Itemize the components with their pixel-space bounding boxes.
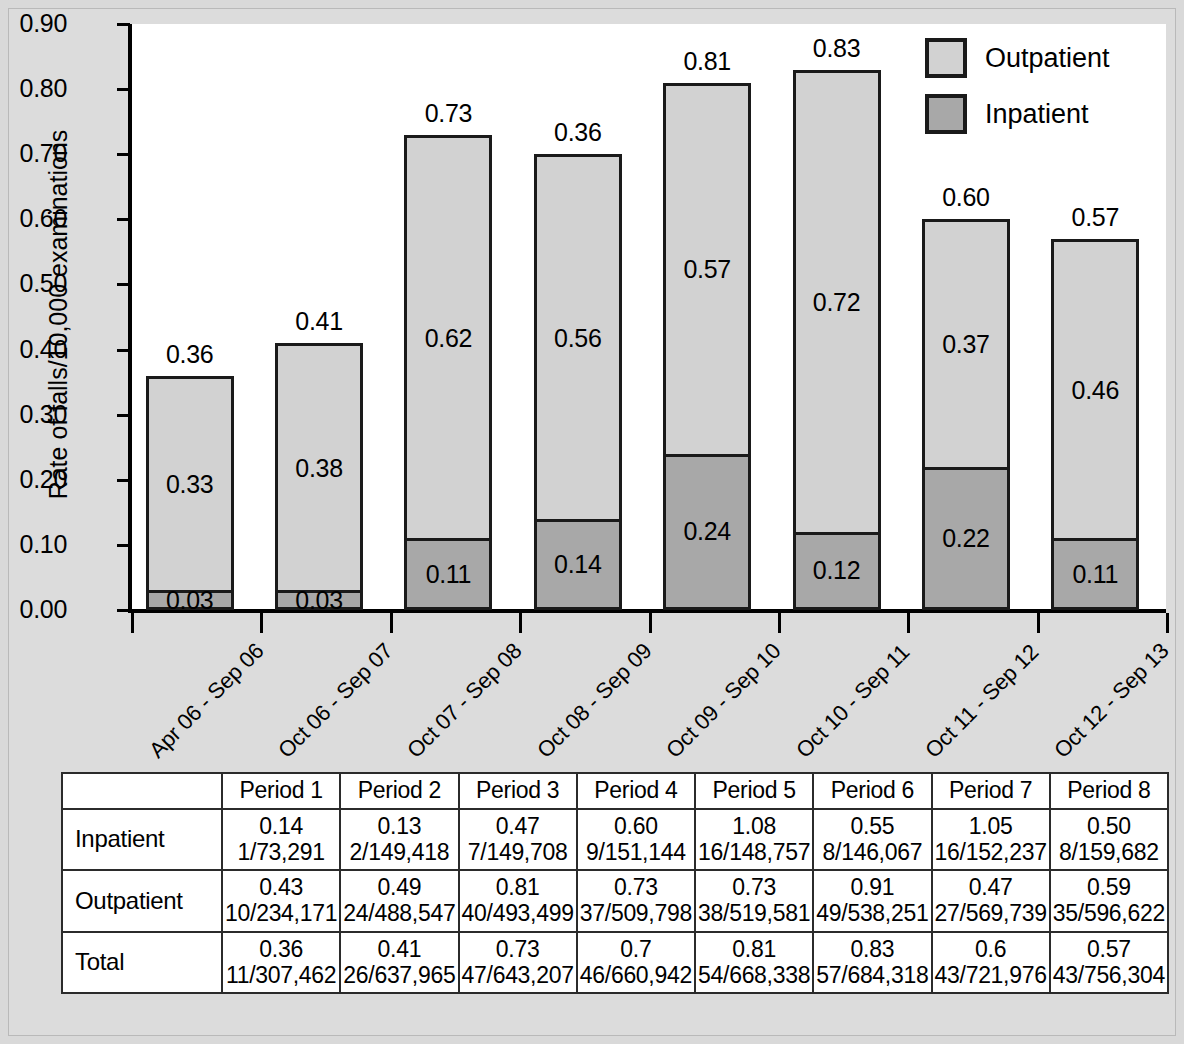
- table-column-header: Period 8: [1050, 773, 1168, 809]
- bar-segment-inpatient[interactable]: 0.03: [146, 590, 234, 610]
- bar-segment-inpatient[interactable]: 0.14: [534, 519, 622, 610]
- table-corner-cell: [62, 773, 222, 809]
- bar-group[interactable]: 0.370.220.60: [922, 219, 1010, 610]
- y-tick-label: 0.90: [0, 11, 67, 36]
- bar-group[interactable]: 0.720.120.83: [793, 70, 881, 610]
- y-tick-mark: [117, 88, 130, 91]
- legend-label: Outpatient: [985, 45, 1110, 72]
- bar-segment-inpatient[interactable]: 0.22: [922, 467, 1010, 610]
- bar-segment-label-inpatient: 0.12: [813, 558, 860, 583]
- bar-segment-outpatient[interactable]: 0.56: [534, 154, 622, 519]
- table-row: Total0.3611/307,4620.4126/637,9650.7347/…: [62, 932, 1168, 994]
- bar-segment-label-inpatient: 0.11: [426, 562, 472, 587]
- bar-segment-inpatient[interactable]: 0.12: [793, 532, 881, 610]
- bar-segment-outpatient[interactable]: 0.72: [793, 70, 881, 532]
- bar-segment-outpatient[interactable]: 0.57: [663, 83, 751, 454]
- bar-segment-label-outpatient: 0.72: [813, 290, 860, 315]
- table-cell-rate: 0.41: [343, 937, 455, 963]
- y-tick-mark: [117, 218, 130, 221]
- table-cell-rate: 1.08: [698, 814, 810, 840]
- table-cell-fraction: 38/519,581: [698, 901, 810, 927]
- x-tick-mark: [1037, 613, 1040, 633]
- table-cell-fraction: 35/596,622: [1053, 901, 1165, 927]
- y-tick-mark: [117, 23, 130, 26]
- legend-label: Inpatient: [985, 101, 1089, 128]
- y-tick-mark: [117, 414, 130, 417]
- chart-legend: OutpatientInpatient: [925, 38, 1155, 150]
- y-tick-label: 0.80: [0, 76, 67, 101]
- table-cell: 0.141/73,291: [222, 809, 340, 871]
- table-cell: 0.746/660,942: [577, 932, 695, 994]
- bar-segment-outpatient[interactable]: 0.33: [146, 376, 234, 591]
- bar-segment-label-outpatient: 0.56: [554, 326, 601, 351]
- table-cell-rate: 0.73: [698, 875, 810, 901]
- table-cell-rate: 0.60: [580, 814, 692, 840]
- table-cell: 0.5743/756,304: [1050, 932, 1168, 994]
- table-cell-fraction: 37/509,798: [580, 901, 692, 927]
- bar-segment-inpatient[interactable]: 0.11: [1051, 538, 1139, 610]
- x-tick-mark: [907, 613, 910, 633]
- bar-group[interactable]: 0.570.240.81: [663, 83, 751, 610]
- period-data-table: Period 1Period 2Period 3Period 4Period 5…: [61, 772, 1169, 994]
- bar-group[interactable]: 0.330.030.36: [146, 376, 234, 610]
- table-cell-fraction: 2/149,418: [343, 840, 455, 866]
- table-cell: 1.0516/152,237: [932, 809, 1050, 871]
- bar-segment-label-outpatient: 0.38: [295, 456, 342, 481]
- table-cell: 0.609/151,144: [577, 809, 695, 871]
- bar-segment-inpatient[interactable]: 0.03: [275, 590, 363, 610]
- table-cell-fraction: 9/151,144: [580, 840, 692, 866]
- bar-group[interactable]: 0.380.030.41: [275, 343, 363, 610]
- table-row-header: Outpatient: [62, 870, 222, 932]
- y-tick-mark: [117, 283, 130, 286]
- legend-item[interactable]: Outpatient: [925, 38, 1155, 78]
- bar-segment-label-inpatient: 0.11: [1073, 562, 1119, 587]
- table-cell-fraction: 24/488,547: [343, 901, 455, 927]
- table-row: Outpatient0.4310/234,1710.4924/488,5470.…: [62, 870, 1168, 932]
- table-cell-fraction: 16/148,757: [698, 840, 810, 866]
- table-cell: 0.4310/234,171: [222, 870, 340, 932]
- bar-segment-outpatient[interactable]: 0.46: [1051, 239, 1139, 539]
- legend-swatch-inpatient: [925, 94, 967, 134]
- table-cell: 0.8154/668,338: [695, 932, 813, 994]
- table-cell-fraction: 7/149,708: [462, 840, 574, 866]
- bar-segment-outpatient[interactable]: 0.37: [922, 219, 1010, 466]
- table-cell: 0.9149/538,251: [813, 870, 931, 932]
- table-cell: 1.0816/148,757: [695, 809, 813, 871]
- x-category-label: Oct 12 - Sep 13: [1049, 638, 1174, 763]
- bar-segment-label-inpatient: 0.24: [683, 519, 730, 544]
- stacked-bar-chart: 0.900.800.700.600.500.400.300.200.100.00…: [0, 0, 1184, 770]
- legend-swatch-outpatient: [925, 38, 967, 78]
- table-cell-rate: 0.13: [343, 814, 455, 840]
- x-tick-mark: [1166, 613, 1169, 633]
- table-cell-fraction: 26/637,965: [343, 963, 455, 989]
- bar-group[interactable]: 0.560.140.36: [534, 154, 622, 610]
- table-cell-fraction: 54/668,338: [698, 963, 810, 989]
- table-cell-rate: 0.14: [225, 814, 337, 840]
- bar-segment-inpatient[interactable]: 0.24: [663, 454, 751, 610]
- x-category-label: Oct 08 - Sep 09: [532, 638, 657, 763]
- table-cell-fraction: 10/234,171: [225, 901, 337, 927]
- x-category-label: Oct 06 - Sep 07: [273, 638, 398, 763]
- bar-segment-outpatient[interactable]: 0.62: [404, 135, 492, 539]
- table-cell: 0.8140/493,499: [459, 870, 577, 932]
- table-cell-rate: 0.91: [816, 875, 928, 901]
- bar-group[interactable]: 0.460.110.57: [1051, 239, 1139, 610]
- table-column-header: Period 6: [813, 773, 931, 809]
- bar-segment-outpatient[interactable]: 0.38: [275, 343, 363, 590]
- figure-root: 0.900.800.700.600.500.400.300.200.100.00…: [0, 0, 1184, 1044]
- y-tick-label: 0.10: [0, 532, 67, 557]
- bar-segment-label-outpatient: 0.46: [1072, 378, 1119, 403]
- legend-item[interactable]: Inpatient: [925, 94, 1155, 134]
- table-cell: 0.4924/488,547: [340, 870, 458, 932]
- table-cell-fraction: 43/756,304: [1053, 963, 1165, 989]
- bar-total-label: 0.41: [239, 309, 399, 334]
- table-cell-fraction: 49/538,251: [816, 901, 928, 927]
- bar-group[interactable]: 0.620.110.73: [404, 135, 492, 610]
- bar-segment-inpatient[interactable]: 0.11: [404, 538, 492, 610]
- table-cell-rate: 0.50: [1053, 814, 1165, 840]
- table-cell: 0.477/149,708: [459, 809, 577, 871]
- bar-segment-label-outpatient: 0.37: [942, 332, 989, 357]
- table-column-header: Period 4: [577, 773, 695, 809]
- table-cell-fraction: 11/307,462: [225, 963, 337, 989]
- table-cell-rate: 0.81: [462, 875, 574, 901]
